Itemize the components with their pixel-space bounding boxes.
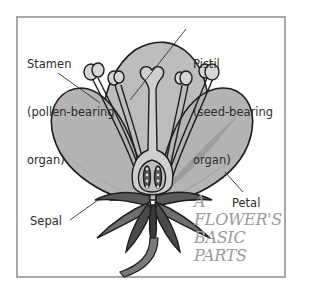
diagram-title: A FLOWER'S BASIC PARTS bbox=[194, 193, 282, 265]
sepal-label: Sepal bbox=[30, 213, 62, 229]
stem bbox=[120, 238, 158, 277]
pistil-label: Pistil (seed-bearing organ) bbox=[193, 24, 273, 184]
stamen-label: Stamen (pollen-bearing organ) bbox=[27, 24, 115, 184]
